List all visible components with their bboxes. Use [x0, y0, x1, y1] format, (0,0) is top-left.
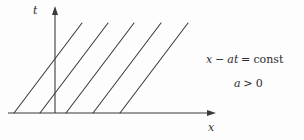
characteristic-line-5: [120, 23, 188, 113]
equation-const-text: const: [253, 53, 283, 66]
characteristic-equation-label: x − at = const: [206, 54, 283, 65]
characteristic-line-4: [93, 23, 161, 113]
equation-minus-operator: −: [212, 53, 227, 66]
x-axis-arrowhead: [207, 110, 216, 116]
condition-label: a > 0: [234, 78, 263, 89]
condition-relation-operator: >: [241, 77, 256, 90]
figure-canvas: t x x − at = const a > 0: [0, 0, 304, 140]
characteristic-lines: [14, 23, 188, 113]
characteristic-line-1: [14, 23, 82, 113]
t-axis-arrowhead: [52, 6, 58, 15]
characteristic-line-3: [66, 23, 134, 113]
equation-equals-operator: =: [238, 53, 253, 66]
t-axis-label: t: [33, 5, 37, 16]
x-axis-label: x: [208, 122, 214, 133]
characteristic-line-2: [40, 23, 108, 113]
condition-value: 0: [256, 77, 263, 90]
diagram-svg: [0, 0, 304, 140]
